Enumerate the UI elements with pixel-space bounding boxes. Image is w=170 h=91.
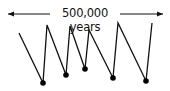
arrow-left-head-icon bbox=[8, 12, 14, 17]
time-span-label: 500,000 years bbox=[50, 6, 120, 20]
arrow-right-head-icon bbox=[157, 12, 163, 17]
minimum-points bbox=[40, 66, 149, 86]
minimum-dot bbox=[40, 80, 46, 86]
minimum-dot bbox=[63, 72, 69, 78]
minimum-dot bbox=[110, 75, 116, 81]
minimum-dot bbox=[82, 66, 88, 72]
minimum-dot bbox=[143, 78, 149, 84]
